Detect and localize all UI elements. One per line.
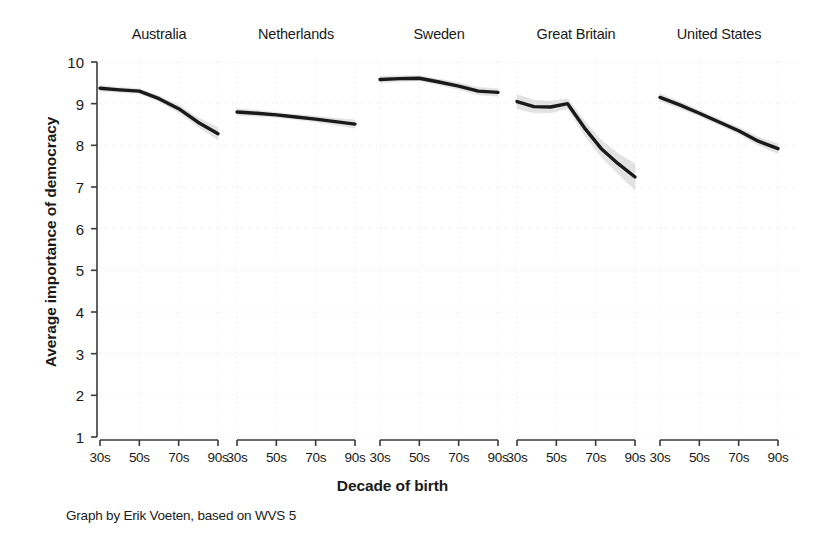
x-tick-4-50s: 50s bbox=[682, 450, 716, 465]
series-sweden bbox=[380, 76, 498, 96]
chart-caption: Graph by Erik Voeten, based on WVS 5 bbox=[66, 508, 296, 523]
x-tick-3-50s: 50s bbox=[539, 450, 573, 465]
series-great-britain bbox=[517, 95, 635, 191]
panel-title-australia: Australia bbox=[100, 26, 218, 42]
y-axis-spine bbox=[91, 62, 97, 437]
x-tick-1-30s: 30s bbox=[220, 450, 254, 465]
panel-title-netherlands: Netherlands bbox=[237, 26, 355, 42]
x-tick-1-70s: 70s bbox=[299, 450, 333, 465]
x-tick-4-70s: 70s bbox=[722, 450, 756, 465]
chart-figure: Average importance of democracy 10987654… bbox=[0, 0, 815, 544]
x-tick-3-70s: 70s bbox=[579, 450, 613, 465]
panel-title-united-states: United States bbox=[660, 26, 778, 42]
x-tick-1-50s: 50s bbox=[259, 450, 293, 465]
x-tick-0-30s: 30s bbox=[83, 450, 117, 465]
series-united-states bbox=[660, 94, 778, 154]
x-tick-3-30s: 30s bbox=[500, 450, 534, 465]
x-tick-2-30s: 30s bbox=[363, 450, 397, 465]
panel-title-sweden: Sweden bbox=[380, 26, 498, 42]
background-grid bbox=[100, 62, 800, 437]
series-australia bbox=[100, 85, 218, 140]
series-netherlands bbox=[237, 109, 355, 129]
x-tick-0-70s: 70s bbox=[162, 450, 196, 465]
x-tick-4-30s: 30s bbox=[643, 450, 677, 465]
panel-title-great-britain: Great Britain bbox=[517, 26, 635, 42]
x-tick-2-70s: 70s bbox=[442, 450, 476, 465]
x-tick-0-50s: 50s bbox=[122, 450, 156, 465]
x-axis-spine bbox=[100, 440, 778, 446]
x-tick-2-50s: 50s bbox=[402, 450, 436, 465]
x-axis-title: Decade of birth bbox=[0, 477, 815, 495]
x-tick-4-90s: 90s bbox=[761, 450, 795, 465]
